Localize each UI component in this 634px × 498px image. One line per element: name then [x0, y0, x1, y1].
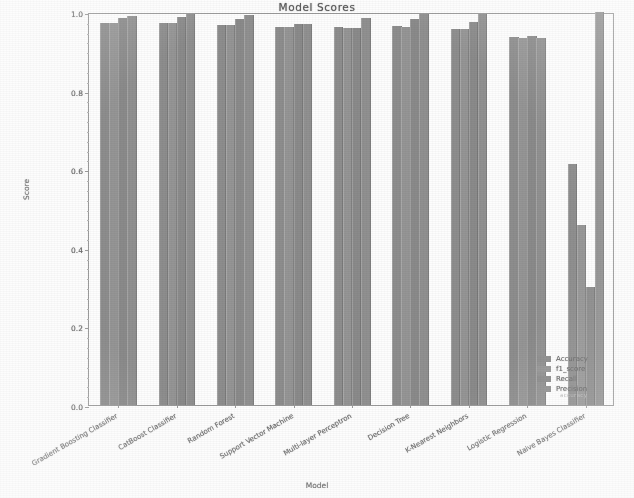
bar [536, 38, 545, 405]
y-minor-tick [87, 358, 90, 359]
legend-item: f1_score [537, 364, 627, 374]
y-tick-mark [85, 250, 89, 251]
bar [343, 28, 352, 405]
chart-legend: Accuracyf1_scoreRecallPrecision [535, 353, 629, 396]
bar [334, 27, 343, 405]
y-minor-tick [87, 122, 90, 123]
y-minor-tick [87, 102, 90, 103]
y-tick-label: 0.2 [55, 324, 83, 333]
y-minor-tick [87, 24, 90, 25]
y-minor-tick [87, 201, 90, 202]
legend-ghost-text: accuracy [560, 392, 587, 398]
y-minor-tick [87, 240, 90, 241]
bar [527, 36, 536, 405]
legend-label: Recall [556, 375, 577, 383]
y-minor-tick [87, 338, 90, 339]
y-minor-tick [87, 260, 90, 261]
bar [361, 18, 370, 405]
chart-title: Model Scores [0, 1, 634, 13]
chart-figure: Model Scores Score 0.00.20.40.60.81.0 Gr… [0, 0, 634, 498]
legend-swatch [537, 376, 551, 382]
y-tick-label: 0.4 [55, 245, 83, 254]
y-minor-tick [87, 368, 90, 369]
legend-swatch [537, 366, 551, 372]
y-minor-tick [87, 230, 90, 231]
x-tick-label: K-Nearest Neighbors [404, 412, 470, 455]
y-minor-tick [87, 220, 90, 221]
y-minor-tick [87, 387, 90, 388]
bar [478, 14, 487, 405]
x-tick-label: Random Forest [186, 412, 236, 445]
x-tick-label: CatBoost Classifier [117, 412, 178, 452]
bar-group [159, 14, 195, 405]
legend-item: Accuracy [537, 354, 627, 364]
bar [217, 25, 226, 405]
bar [159, 23, 168, 405]
bar [275, 27, 284, 405]
bar [168, 23, 177, 405]
bar [303, 24, 312, 405]
y-minor-tick [87, 34, 90, 35]
bar [460, 29, 469, 405]
legend-label: f1_score [556, 365, 585, 373]
legend-label: Accuracy [556, 355, 588, 363]
y-minor-tick [87, 132, 90, 133]
x-tick-mark [410, 405, 411, 408]
bar-group [451, 14, 487, 405]
y-tick-mark [85, 14, 89, 15]
y-minor-tick [87, 53, 90, 54]
y-minor-tick [87, 378, 90, 379]
bar [284, 27, 293, 405]
bar-group [217, 14, 253, 405]
y-minor-tick [87, 309, 90, 310]
x-tick-mark [118, 405, 119, 408]
x-tick-mark [352, 405, 353, 408]
bar [118, 18, 127, 405]
x-tick-mark [586, 405, 587, 408]
y-minor-tick [87, 348, 90, 349]
y-minor-tick [87, 299, 90, 300]
bar-group [275, 14, 311, 405]
bar-group [392, 14, 428, 405]
y-tick-label: 0.0 [55, 403, 83, 412]
y-minor-tick [87, 269, 90, 270]
y-axis-label: Score [22, 179, 31, 200]
x-tick-mark [527, 405, 528, 408]
y-minor-tick [87, 63, 90, 64]
bar [509, 37, 518, 405]
bar [518, 38, 527, 405]
bar [127, 16, 136, 405]
bar-group [568, 14, 604, 405]
y-minor-tick [87, 152, 90, 153]
y-minor-tick [87, 319, 90, 320]
bar [595, 12, 604, 405]
y-tick-label: 0.6 [55, 167, 83, 176]
bar-group [100, 14, 136, 405]
y-minor-tick [87, 142, 90, 143]
bar [235, 19, 244, 405]
legend-swatch [537, 356, 551, 362]
bar [100, 23, 109, 405]
bar [352, 28, 361, 405]
bar [244, 15, 253, 405]
x-tick-mark [469, 405, 470, 408]
legend-item: Recall [537, 374, 627, 384]
y-minor-tick [87, 161, 90, 162]
bar-group [334, 14, 370, 405]
bar [392, 26, 401, 405]
bar [401, 27, 410, 405]
y-minor-tick [87, 279, 90, 280]
y-tick-mark [85, 328, 89, 329]
y-minor-tick [87, 191, 90, 192]
y-minor-tick [87, 112, 90, 113]
bar [410, 19, 419, 405]
y-tick-mark [85, 407, 89, 408]
bar [186, 14, 195, 405]
y-minor-tick [87, 289, 90, 290]
x-tick-mark [235, 405, 236, 408]
plot-area: 0.00.20.40.60.81.0 [88, 13, 614, 406]
bars-layer [89, 14, 613, 405]
y-tick-label: 0.8 [55, 88, 83, 97]
x-tick-label: Decision Tree [367, 412, 411, 442]
bar-group [509, 14, 545, 405]
